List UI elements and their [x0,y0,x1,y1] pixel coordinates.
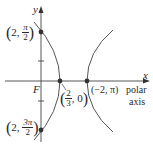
point-top [39,30,44,35]
polar-axis-label-line1: polar [126,84,147,95]
point-bottom-theta: 3π 2 [22,118,33,137]
point-top-theta-den: 2 [23,33,28,42]
point-bottom-theta-den: 2 [26,128,31,137]
point-vertex-right-label: (−2, π) [91,84,118,95]
point-top-label: (2, π 2 ) [6,23,34,42]
focus-label: F [33,84,40,95]
point-bottom-label: (2, 3π 2 ) [6,118,39,137]
y-axis-label: y [33,4,38,15]
y-axis-arrow-icon [39,6,44,13]
point-vertex-left-den: 3 [66,99,71,108]
polar-axis-label-line2: axis [129,96,145,107]
point-vertex-left-r: 2 3 [65,89,72,108]
point-vertex-left-label: ( 2 3 , 0) [60,89,88,108]
point-vertex-left [58,79,63,84]
point-bottom-r: 2 [11,122,17,133]
point-bottom [39,128,44,133]
x-axis-label: x [143,70,148,81]
point-vertex-right [85,79,90,84]
point-top-r: 2 [11,27,17,38]
